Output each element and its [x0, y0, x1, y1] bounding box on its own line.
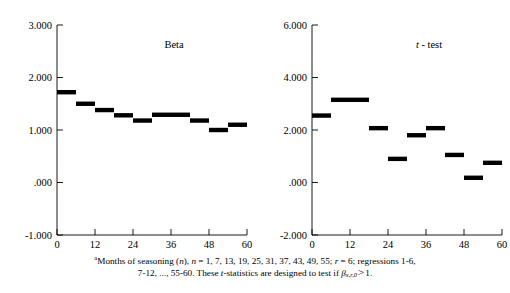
ttest-data-segment	[388, 157, 407, 161]
beta-y-tick-label: .000	[34, 177, 52, 188]
chart-panel-ttest: -2.000.0002.0004.0006.00001224364860t - …	[255, 0, 510, 255]
beta-data-segment	[171, 113, 190, 117]
beta-y-tick-label: 2.000	[28, 72, 52, 83]
ttest-x-tick-label: 12	[345, 239, 356, 250]
ttest-y-tick-label: .000	[289, 177, 307, 188]
ttest-y-tick-label: 2.000	[283, 125, 307, 136]
ttest-x-tick-label: 24	[383, 239, 394, 250]
beta-data-segment	[190, 118, 209, 122]
ttest-data-segment	[369, 126, 388, 130]
ttest-x-tick-label: 0	[309, 239, 314, 250]
ttest-data-segment	[312, 113, 331, 117]
ttest-x-tick-label: 48	[459, 239, 470, 250]
beta-data-segment	[95, 108, 114, 112]
beta-data-segment	[133, 118, 152, 122]
beta-chart-svg: -1.000.0001.0002.0003.00001224364860Beta	[0, 0, 255, 255]
footnote-l1-pre: Months of seasoning (	[97, 256, 179, 266]
beta-x-tick-label: 24	[128, 239, 139, 250]
ttest-data-segment	[445, 153, 464, 157]
ttest-x-tick-label: 60	[497, 239, 508, 250]
beta-title: Beta	[164, 39, 184, 50]
ttest-y-tick-label: 4.000	[283, 72, 307, 83]
beta-x-tick-label: 60	[242, 239, 253, 250]
beta-y-tick-label: -1.000	[25, 230, 52, 241]
footnote-l2-end: 1.	[365, 268, 372, 278]
ttest-x-tick-label: 36	[421, 239, 432, 250]
beta-x-tick-label: 12	[90, 239, 101, 250]
ttest-data-segment	[407, 133, 426, 137]
footnote-l1-r-value: = 6; regressions 1-6,	[338, 256, 415, 266]
footnote-line-1: aMonths of seasoning (n), n = 1, 7, 13, …	[0, 252, 510, 267]
chart-panel-beta: -1.000.0001.0002.0003.00001224364860Beta	[0, 0, 255, 255]
beta-x-tick-label: 0	[54, 239, 59, 250]
ttest-y-tick-label: 6.000	[283, 20, 307, 31]
ttest-y-tick-label: -2.000	[280, 230, 307, 241]
beta-x-tick-label: 36	[166, 239, 177, 250]
beta-data-segment	[209, 128, 228, 132]
footnote-l2-beta-subscript: x,r,0	[346, 272, 357, 279]
beta-data-segment	[152, 113, 171, 117]
figure-footnote: aMonths of seasoning (n), n = 1, 7, 13, …	[0, 252, 510, 281]
beta-x-tick-label: 48	[204, 239, 215, 250]
ttest-data-segment	[464, 176, 483, 180]
ttest-data-segment	[483, 161, 502, 165]
footnote-l2-mid: -statistics are designed to test if	[223, 268, 341, 278]
ttest-title: t - test	[416, 39, 442, 50]
beta-data-segment	[57, 90, 76, 94]
ttest-data-segment	[331, 98, 350, 102]
ttest-data-segment	[350, 98, 369, 102]
beta-y-tick-label: 3.000	[28, 20, 52, 31]
footnote-l2-pre: 7-12, ..., 55-60. These	[138, 268, 221, 278]
footnote-line-2: 7-12, ..., 55-60. These t-statistics are…	[0, 267, 510, 281]
figure-container: -1.000.0001.0002.0003.00001224364860Beta…	[0, 0, 510, 293]
footnote-l1-values: = 1, 7, 13, 19, 25, 31, 37, 43, 49, 55;	[196, 256, 335, 266]
beta-data-segment	[228, 123, 247, 127]
ttest-chart-svg: -2.000.0002.0004.0006.00001224364860t - …	[255, 0, 510, 255]
beta-data-segment	[76, 102, 95, 106]
beta-y-tick-label: 1.000	[28, 125, 52, 136]
ttest-data-segment	[426, 126, 445, 130]
beta-data-segment	[114, 113, 133, 117]
